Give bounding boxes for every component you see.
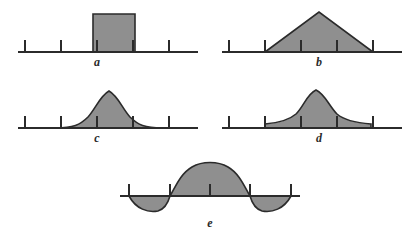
curve-e-right-sidelobe [250,196,291,211]
panel-e: e [120,160,300,222]
panel-e-plot [120,160,300,222]
axis-e-ticks [129,184,291,196]
panel-a-plot [18,6,198,58]
panel-a: a [18,6,198,58]
window-functions-figure: a b [0,0,420,240]
panel-b-plot [222,6,402,58]
curve-b-triangle [265,12,373,52]
panel-label-d: d [309,131,329,146]
curve-a-rectangle [93,14,135,52]
panel-d: d [222,82,402,134]
axis-a-ticks [25,40,169,52]
panel-d-plot [222,82,402,134]
panel-c: c [18,82,198,134]
panel-b: b [222,6,402,58]
panel-label-e: e [200,216,220,231]
curve-d-truncated-gaussian [265,90,371,128]
panel-label-b: b [309,55,329,70]
curve-c-gaussian [56,91,162,128]
panel-label-c: c [87,131,107,146]
panel-c-plot [18,82,198,134]
panel-label-a: a [87,55,107,70]
curve-e-left-sidelobe [129,196,170,211]
